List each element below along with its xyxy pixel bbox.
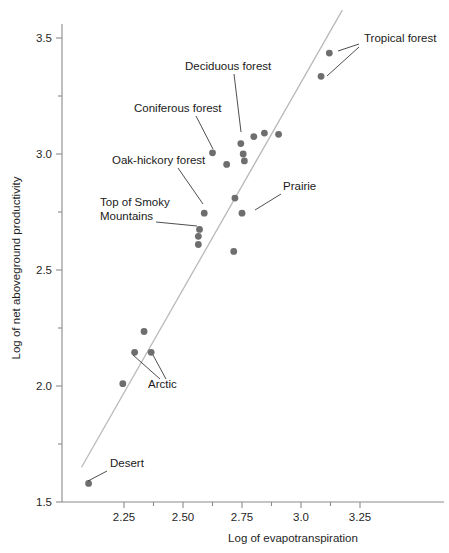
annotation-coniferous-forest: Coniferous forest [134,102,222,114]
annotation-arctic: Arctic [148,378,177,390]
leader-line-top-of-smoky-mountains [156,222,197,226]
leader-line-arctic [153,355,166,379]
y-tick-label: 2.5 [36,264,52,276]
plot-area: 3.53.02.52.01.52.252.502.753.03.25 Tropi… [0,0,449,553]
scatter-chart: 3.53.02.52.01.52.252.502.753.03.25 Tropi… [0,0,449,553]
regression-line-segment [82,10,343,467]
annotation-tropical-forest: Tropical forest [364,32,437,44]
leader-line-desert [88,471,107,481]
data-point-arctic [148,349,155,356]
data-point [232,195,239,202]
annotation-top-of-smoky-mountains: Top of SmokyMountains [100,196,170,222]
data-point-deciduous-forest [237,140,244,147]
leader-line-oak-hickory-forest [178,168,203,204]
data-point [250,133,257,140]
data-point-prairie [239,210,246,217]
annotation-deciduous-forest: Deciduous forest [185,60,272,72]
annotation-desert: Desert [110,457,145,469]
data-point-top-of-smoky-mountains [196,226,203,233]
leader-line-prairie [255,194,281,210]
data-point-top-of-smoky-mountains [195,233,202,240]
y-tick-label: 2.0 [36,380,52,392]
regression-line [82,10,343,467]
annotation-leader-lines [88,44,359,481]
x-tick-label: 3.25 [349,511,371,523]
y-axis-title: Log of net aboveground productivity [10,176,22,359]
y-tick-label: 3.5 [36,32,52,44]
leader-line-arctic [133,355,160,379]
y-tick-label: 3.0 [36,148,52,160]
data-point [241,158,248,165]
data-point [275,131,282,138]
annotation-labels: Tropical forestDeciduous forestConiferou… [100,32,437,469]
data-point-tropical-forest [326,50,333,57]
leader-line-coniferous-forest [196,116,213,149]
data-point [223,161,230,168]
data-point [141,328,148,335]
x-tick-label: 2.25 [113,511,135,523]
data-point-oak-hickory-forest [201,210,208,217]
annotation-oak-hickory-forest: Oak-hickory forest [112,154,206,166]
data-points [85,50,333,487]
annotation-line-2: Mountains [100,210,153,222]
data-point-arctic [131,349,138,356]
axes [62,24,444,502]
x-tick-label: 3.0 [293,511,309,523]
data-point [230,248,237,255]
data-point [195,241,202,248]
leader-line-deciduous-forest [234,74,241,132]
data-point [119,380,126,387]
data-point [240,151,247,158]
y-tick-label: 1.5 [36,496,52,508]
annotation-line-1: Top of Smoky [100,196,170,208]
data-point-coniferous-forest [209,149,216,156]
annotation-prairie: Prairie [283,180,316,192]
data-point-tropical-forest [318,73,325,80]
x-tick-label: 2.75 [231,511,253,523]
x-tick-label: 2.50 [172,511,194,523]
data-point [261,130,268,137]
x-axis-title: Log of evapotranspiration [228,532,358,544]
